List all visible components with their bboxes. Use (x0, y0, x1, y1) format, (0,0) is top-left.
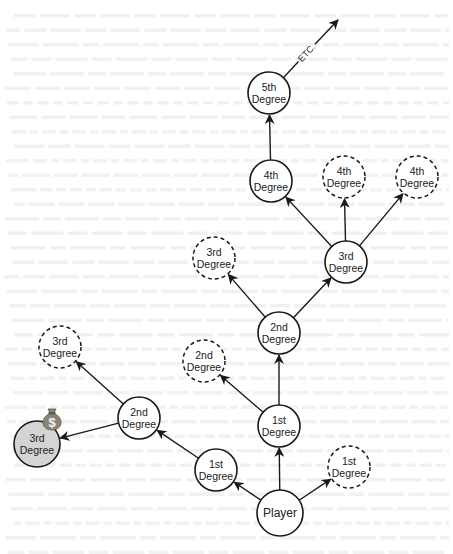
edge-third-solid-to-fourth-solid (286, 197, 332, 246)
degrees-of-separation-diagram: ETC. Player1stDegree1stDegree1stDegree2n… (0, 0, 453, 554)
node-label-line1: 2nd (130, 406, 148, 418)
edge-second-left-to-third-gray (60, 423, 118, 438)
edge-third-solid-to-fourth-dashed-right (359, 194, 402, 246)
node-label-line1: 5th (262, 81, 277, 93)
node-label-line2: Degree (254, 181, 289, 193)
node-label-line1: 4th (337, 165, 352, 177)
node-third-dashed-left: 3rdDegree (39, 326, 81, 368)
money-bag-icon: $ (43, 409, 61, 430)
node-label-line1: 3rd (206, 246, 221, 258)
node-label-line2: Degree (252, 93, 287, 105)
node-label-line1: 1st (272, 414, 286, 426)
node-third-solid: 3rdDegree (325, 241, 367, 283)
node-fifth: 5thDegree (248, 72, 290, 114)
edge-player-to-first-right (299, 479, 331, 500)
node-label-line1: 4th (264, 169, 279, 181)
node-first-left: 1stDegree (195, 449, 237, 491)
node-label-line1: 1st (342, 455, 356, 467)
edge-first-upper-to-second-dashed (221, 375, 264, 412)
edge-first-left-to-second-left (157, 430, 198, 458)
node-player: Player (257, 490, 303, 536)
node-label-line1: 2nd (270, 321, 288, 333)
node-fourth-dashed-right: 4thDegree (396, 156, 438, 198)
node-label-line1: 3rd (338, 250, 353, 262)
node-label-line2: Degree (20, 444, 55, 456)
node-label-line2: Degree (332, 467, 367, 479)
node-label-line2: Degree (199, 470, 234, 482)
edge-player-to-first-left (234, 482, 261, 500)
etc-label: ETC. (296, 42, 317, 64)
node-label-line2: Degree (122, 418, 157, 430)
continuation-arrow (315, 20, 338, 44)
edge-third-solid-to-fourth-dashed-mid (345, 199, 346, 241)
node-first-right: 1stDegree (328, 446, 370, 488)
dollar-sign-glyph: $ (48, 415, 56, 430)
node-label-line2: Degree (262, 333, 297, 345)
node-label-line2: Degree (400, 177, 435, 189)
node-label-line2: Degree (327, 177, 362, 189)
node-label-line2: Degree (43, 347, 78, 359)
node-label-line2: Degree (262, 426, 297, 438)
node-third-dashed-mid: 3rdDegree (193, 237, 235, 279)
edge-second-top-to-third-solid (293, 278, 330, 318)
node-label-line2: Degree (187, 361, 222, 373)
node-fourth-dashed-mid: 4thDegree (323, 156, 365, 198)
nodes-layer: Player1stDegree1stDegree1stDegree2ndDegr… (14, 72, 438, 536)
node-second-left: 2ndDegree (118, 397, 160, 439)
node-label-line1: 3rd (29, 432, 44, 444)
node-label-line1: 3rd (52, 335, 67, 347)
node-fourth-solid: 4thDegree (250, 160, 292, 202)
node-first-upper: 1stDegree (258, 405, 300, 447)
node-label: Player (263, 506, 297, 520)
node-second-top: 2ndDegree (258, 312, 300, 354)
node-label-line1: 2nd (195, 349, 213, 361)
node-second-dashed: 2ndDegree (183, 340, 225, 382)
node-label-line2: Degree (329, 262, 364, 274)
extras-layer: $ (43, 409, 61, 430)
edge-second-left-to-third-dashed-left (76, 362, 123, 404)
continuation-line (283, 62, 298, 78)
node-label-line1: 4th (410, 165, 425, 177)
edge-fourth-solid-to-fifth (269, 115, 270, 160)
edge-second-top-to-third-dashed-mid (228, 275, 265, 318)
node-label-line1: 1st (209, 458, 223, 470)
node-label-line2: Degree (197, 258, 232, 270)
